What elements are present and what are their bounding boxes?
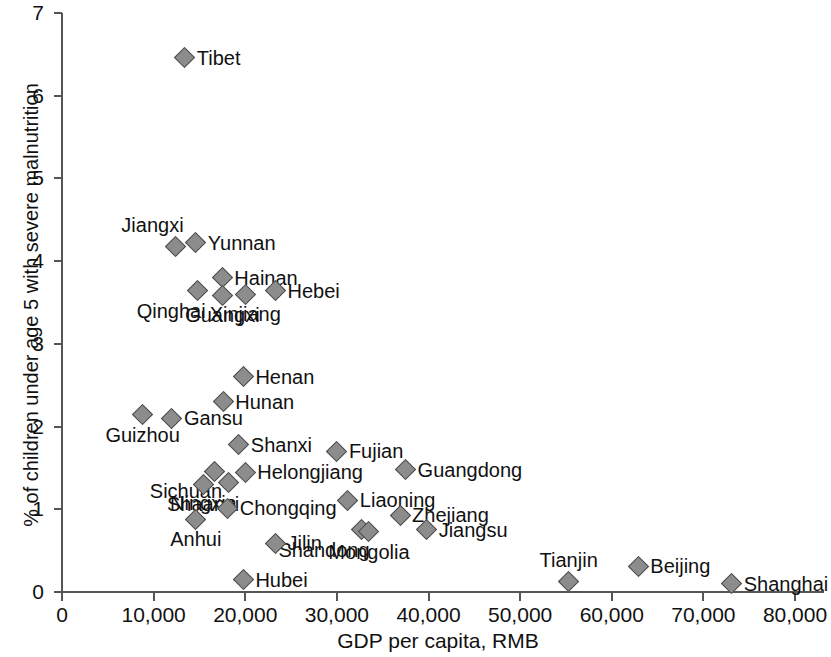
x-tick-label: 0	[56, 604, 68, 625]
data-point-label: Beijing	[650, 556, 710, 576]
data-point-marker[interactable]	[326, 441, 347, 462]
x-tick	[428, 593, 430, 601]
x-tick	[153, 593, 155, 601]
data-point-label: Shanghai	[744, 574, 829, 594]
y-tick	[54, 426, 62, 428]
scatter-chart: 01234567 010,00020,00030,00040,00050,000…	[0, 0, 831, 657]
data-point-label: Chongqing	[240, 498, 337, 518]
data-point-marker[interactable]	[337, 490, 358, 511]
y-axis-title: % of children under age 5 with severe ma…	[21, 5, 41, 605]
data-point-label: Hubei	[255, 570, 307, 590]
data-point-label: Henan	[255, 367, 314, 387]
x-tick-label: 20,000	[213, 604, 277, 625]
data-point-label: Hunan	[235, 392, 294, 412]
data-point-label: Helongjiang	[257, 462, 363, 482]
y-tick	[54, 508, 62, 510]
y-tick	[54, 177, 62, 179]
data-point-label: Anhui	[170, 529, 221, 549]
x-tick-label: 30,000	[305, 604, 369, 625]
data-point-label: Tibet	[197, 48, 241, 68]
x-tick	[244, 593, 246, 601]
data-point-label: Hebei	[287, 281, 339, 301]
data-point-label: Guizhou	[105, 425, 180, 445]
data-point-marker[interactable]	[233, 569, 254, 590]
data-point-marker[interactable]	[174, 47, 195, 68]
y-axis-line	[61, 13, 63, 593]
x-axis-line	[62, 591, 824, 593]
data-point-label: Guangdong	[418, 460, 523, 480]
x-tick	[336, 593, 338, 601]
data-point-label: Jiangsu	[439, 520, 508, 540]
data-point-label: Tianjin	[540, 550, 598, 570]
data-point-label: Jiangxi	[121, 215, 183, 235]
data-point-label: Yunnan	[208, 233, 276, 253]
x-tick	[611, 593, 613, 601]
data-point-label: Mongolia	[328, 542, 409, 562]
x-tick-label: 10,000	[122, 604, 186, 625]
y-tick	[54, 95, 62, 97]
data-point-marker[interactable]	[187, 280, 208, 301]
x-tick-label: 70,000	[671, 604, 735, 625]
data-point-marker[interactable]	[628, 556, 649, 577]
data-point-label: Jilin	[287, 533, 321, 553]
data-point-label: Shanxi	[251, 435, 312, 455]
data-point-label: Xinjiang	[210, 304, 281, 324]
data-point-marker[interactable]	[132, 404, 153, 425]
x-tick-label: 50,000	[488, 604, 552, 625]
x-tick	[519, 593, 521, 601]
x-tick	[702, 593, 704, 601]
data-point-marker[interactable]	[165, 236, 186, 257]
data-point-label: Fujian	[349, 441, 403, 461]
data-point-marker[interactable]	[228, 434, 249, 455]
data-point-marker[interactable]	[233, 366, 254, 387]
data-point-marker[interactable]	[558, 571, 579, 592]
x-tick	[61, 593, 63, 601]
x-tick-label: 60,000	[580, 604, 644, 625]
x-axis-title: GDP per capita, RMB	[0, 630, 831, 652]
data-point-marker[interactable]	[235, 461, 256, 482]
x-tick-label: 40,000	[396, 604, 460, 625]
y-tick	[54, 343, 62, 345]
y-tick	[54, 260, 62, 262]
data-point-label: Gansu	[184, 408, 243, 428]
data-point-marker[interactable]	[185, 232, 206, 253]
x-tick-label: 80,000	[763, 604, 827, 625]
y-tick	[54, 12, 62, 14]
